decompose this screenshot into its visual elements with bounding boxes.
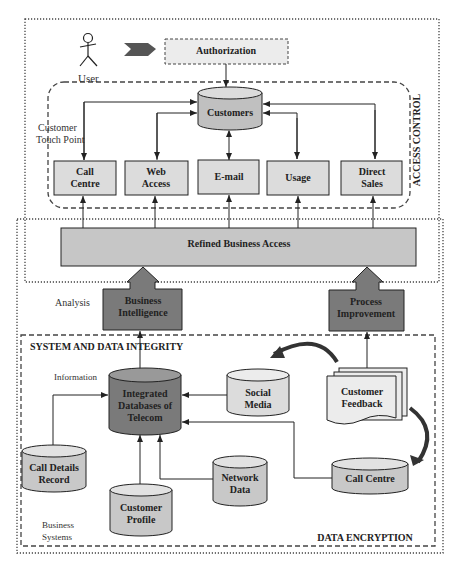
touch-point-usage: Usage bbox=[267, 161, 329, 195]
analysis-label: Analysis bbox=[55, 297, 90, 308]
user-icon bbox=[80, 34, 97, 67]
touch-point-label: Customer Touch Point bbox=[36, 122, 85, 145]
svg-text:E-mail: E-mail bbox=[215, 171, 244, 182]
svg-text:Usage: Usage bbox=[285, 172, 311, 183]
system-integrity-label: SYSTEM AND DATA INTEGRITY bbox=[30, 341, 184, 352]
authorization-label: Authorization bbox=[196, 45, 256, 56]
touch-point-direct-sales: DirectSales bbox=[341, 161, 402, 195]
business-systems-label: BusinessSystems bbox=[42, 520, 75, 542]
refined-business-access-label: Refined Business Access bbox=[188, 238, 291, 249]
touch-point-web-access: WebAccess bbox=[125, 161, 188, 195]
information-label: Information bbox=[54, 372, 97, 382]
social-media-label: SocialMedia bbox=[244, 387, 271, 410]
chevron-arrow-icon bbox=[124, 43, 156, 56]
customer-feedback-label: CustomerFeedback bbox=[341, 386, 384, 409]
feedback-to-callcentre-curve bbox=[410, 408, 427, 462]
telecom-architecture-diagram: User Authorization Customers Customer To… bbox=[0, 0, 455, 568]
access-control-label: ACCESS CONTROL bbox=[411, 93, 422, 186]
data-encryption-label: DATA ENCRYPTION bbox=[317, 532, 413, 543]
user-label: User bbox=[78, 72, 99, 84]
touch-point-call-centre: CallCentre bbox=[54, 161, 116, 195]
touch-point-email: E-mail bbox=[198, 160, 259, 194]
call-centre-db-label: Call Centre bbox=[345, 473, 395, 484]
feedback-to-social-curve bbox=[274, 344, 337, 362]
business-intelligence-label: BusinessIntelligence bbox=[118, 295, 168, 318]
svg-text:DirectSales: DirectSales bbox=[359, 166, 386, 189]
system-integrity-region bbox=[21, 335, 435, 546]
customers-label: Customers bbox=[207, 107, 253, 118]
